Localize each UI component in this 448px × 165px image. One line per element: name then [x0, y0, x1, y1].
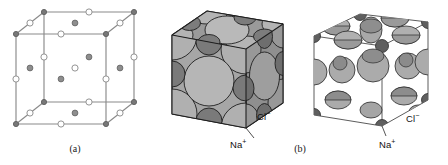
chloride-charge-2: −	[415, 112, 419, 119]
na-leader-line-2	[382, 126, 386, 136]
panel-a-ball-and-stick	[0, 0, 150, 165]
caption-a: (a)	[0, 143, 150, 154]
chloride-label-text: Cl	[257, 111, 266, 122]
panel-b-space-filling-full	[150, 0, 300, 165]
na-leader-line	[246, 128, 254, 138]
space-filling-model-reduced	[300, 0, 448, 140]
panel-b-space-filling-reduced	[300, 0, 448, 165]
chloride-charge: −	[266, 110, 270, 117]
caption-b: (b)	[225, 143, 375, 154]
chloride-label-text-2: Cl	[406, 113, 415, 124]
unit-cell-diagram	[0, 0, 150, 140]
nacl-crystal-structure-figure: Cl− Na+ Cl− Na+ (a) (b)	[0, 0, 448, 165]
sodium-label-text-2: Na	[379, 139, 391, 150]
interior-ions-reduced	[301, 49, 441, 85]
chloride-label-middle: Cl−	[257, 111, 270, 122]
sodium-label-right: Na+	[379, 139, 396, 150]
body-center-anion	[72, 65, 78, 71]
space-filling-model-full	[150, 0, 300, 140]
sodium-charge-2: +	[391, 138, 395, 145]
chloride-label-right: Cl−	[406, 113, 419, 124]
